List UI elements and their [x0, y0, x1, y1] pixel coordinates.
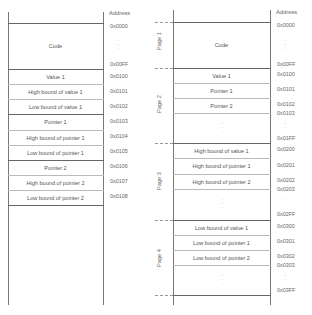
row-divider	[173, 265, 271, 266]
right-page3-ellipsis: ···	[219, 197, 225, 209]
right-page3-next-addr: 0x0203	[277, 186, 295, 192]
right-page3-addr-ellipsis: ··	[282, 197, 288, 205]
right-page4-addr-ellipsis: ··	[282, 273, 288, 281]
left-row-pointer-2: Pointer 2	[8, 160, 103, 175]
right-page4-ellipsis: ···	[219, 273, 225, 285]
page-3-label: Page 3	[156, 166, 162, 196]
right-row-addr: 0x0101	[277, 86, 295, 92]
left-row-pointer-1: Pointer 1	[8, 114, 103, 130]
left-row-high-bound-pointer-1: High bound of pointer 1	[8, 130, 103, 145]
right-row-addr: 0x0201	[277, 162, 295, 168]
left-code-ellipsis: ···	[115, 38, 121, 50]
right-row-addr: 0x0202	[277, 177, 295, 183]
left-row-high-bound-pointer-2: High bound of pointer 2	[8, 175, 103, 190]
right-page2-end-addr: 0x01FF	[277, 135, 295, 141]
left-address-header: Address	[109, 10, 130, 16]
page-boundary-dash	[155, 68, 173, 69]
left-row-value-1: Value 1	[8, 69, 103, 84]
page-4-label: Page 4	[156, 243, 162, 273]
row-divider	[173, 113, 271, 114]
right-row-addr: 0x0301	[277, 238, 295, 244]
left-row-addr: 0x0103	[110, 118, 128, 124]
right-code-block: Code	[173, 22, 270, 68]
left-row-addr: 0x0100	[110, 73, 128, 79]
left-row-addr: 0x0107	[110, 178, 128, 184]
right-row-addr: 0x0200	[277, 146, 295, 152]
right-row-low-bound-pointer-1: Low bound of pointer 1	[173, 235, 270, 250]
page-2-label: Page 2	[156, 89, 162, 119]
right-row-addr: 0x0102	[277, 101, 295, 107]
page-boundary-dash	[155, 220, 173, 221]
left-row-addr: 0x0106	[110, 163, 128, 169]
right-page2-addr-ellipsis: ··	[282, 121, 288, 129]
page-boundary-dash	[155, 22, 173, 23]
left-row-addr: 0x0101	[110, 88, 128, 94]
right-row-pointer-2: Pointer 2	[173, 98, 270, 113]
row-divider	[173, 189, 271, 190]
left-row-low-bound-pointer-2: Low bound of pointer 2	[8, 190, 103, 205]
right-address-header: Address	[276, 9, 297, 15]
left-row-addr: 0x0105	[110, 148, 128, 154]
right-code-ellipsis: ···	[282, 38, 288, 50]
page-boundary-dash	[155, 295, 173, 296]
left-row-addr: 0x0102	[110, 103, 128, 109]
right-row-low-bound-value-1: Low bound of value 1	[173, 220, 270, 235]
right-row-addr: 0x0300	[277, 223, 295, 229]
row-divider	[8, 205, 104, 206]
right-row-high-bound-value-1: High bound of value 1	[173, 143, 270, 158]
right-row-addr: 0x0302	[277, 253, 295, 259]
right-row-low-bound-pointer-2: Low bound of pointer 2	[173, 250, 270, 265]
right-row-pointer-1: Pointer 1	[173, 83, 270, 98]
right-row-addr: 0x0100	[277, 71, 295, 77]
left-code-block: Code	[8, 23, 103, 69]
right-code-addr-end: 0x00FF	[277, 61, 295, 67]
right-page2-ellipsis: ···	[219, 121, 225, 133]
page-boundary-dash	[155, 143, 173, 144]
right-code-addr-start: 0x0000	[277, 22, 295, 28]
page-divider	[173, 295, 271, 296]
left-row-low-bound-value-1: Low bound of value 1	[8, 99, 103, 114]
right-page4-end-addr: 0x03FF	[277, 287, 295, 293]
right-page4-next-addr: 0x0303	[277, 262, 295, 268]
left-row-low-bound-pointer-1: Low bound of pointer 1	[8, 145, 103, 160]
right-page3-end-addr: 0x02FF	[277, 211, 295, 217]
page-1-label: Page 1	[156, 26, 162, 56]
left-code-addr-start: 0x0000	[110, 23, 128, 29]
right-row-value-1: Value 1	[173, 68, 270, 83]
right-row-high-bound-pointer-2: High bound of pointer 2	[173, 174, 270, 189]
left-code-addr-end: 0x00FF	[110, 61, 128, 67]
left-row-addr: 0x0108	[110, 193, 128, 199]
right-page2-next-addr: 0x0103	[277, 110, 295, 116]
left-box-right-edge	[103, 12, 104, 305]
right-row-high-bound-pointer-1: High bound of pointer 1	[173, 158, 270, 174]
left-row-high-bound-value-1: High bound of value 1	[8, 84, 103, 99]
left-row-addr: 0x0104	[110, 133, 128, 139]
